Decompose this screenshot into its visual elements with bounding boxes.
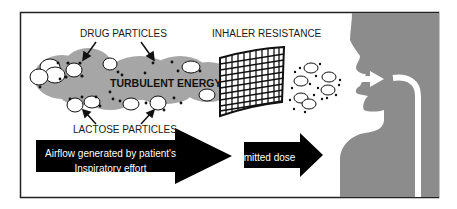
inhaler-resistance-label: INHALER RESISTANCE [212,28,321,39]
drug-particles-label: DRUG PARTICLES [80,28,167,39]
lactose-particles-label: LACTOSE PARTICLES [73,124,177,135]
emitted-dose-label: Emitted dose [237,152,295,163]
airflow-label-line2: Inspiratory effort [43,161,178,176]
airflow-label-line1: Airflow generated by patient's [43,146,178,161]
turbulent-energy-label: TURBULENT ENERGY [110,77,221,89]
airflow-label: Airflow generated by patient's Inspirato… [43,146,178,176]
dpi-diagram: DRUG PARTICLES INHALER RESISTANCE TURBUL… [0,0,457,209]
